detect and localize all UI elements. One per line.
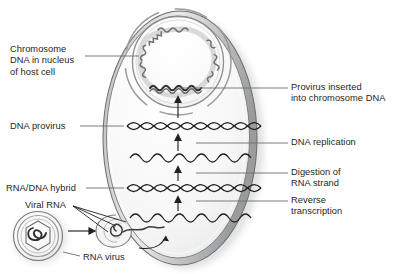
label-chromosome-line2: DNA in nucleus — [10, 55, 74, 66]
label-provirus-inserted-line1: Provirus inserted — [291, 82, 385, 93]
label-viral-rna-line1: Viral RNA — [25, 200, 66, 211]
label-dna-provirus-line1: DNA provirus — [10, 121, 65, 132]
label-rna-dna-hybrid-line1: RNA/DNA hybrid — [6, 183, 76, 194]
label-digestion: Digestion of RNA strand — [291, 167, 341, 190]
diagram-canvas: Chromosome DNA in nucleus of host cell D… — [0, 0, 397, 274]
label-digestion-line2: RNA strand — [291, 178, 341, 189]
label-chromosome: Chromosome DNA in nucleus of host cell — [10, 44, 74, 78]
label-chromosome-line1: Chromosome — [10, 44, 74, 55]
label-digestion-line1: Digestion of — [291, 167, 341, 178]
label-reverse-transcription-line1: Reverse — [291, 195, 342, 206]
virus-entry-arrow — [68, 228, 95, 234]
label-provirus-inserted: Provirus inserted into chromosome DNA — [291, 82, 385, 105]
label-dna-provirus: DNA provirus — [10, 121, 65, 132]
label-reverse-transcription: Reverse transcription — [291, 195, 342, 218]
label-viral-rna: Viral RNA — [25, 200, 66, 211]
rna-virus-particle — [13, 212, 67, 265]
label-provirus-inserted-line2: into chromosome DNA — [291, 93, 385, 104]
label-rna-dna-hybrid: RNA/DNA hybrid — [6, 183, 76, 194]
label-rna-virus: RNA virus — [83, 252, 125, 263]
label-dna-replication-line1: DNA replication — [291, 137, 356, 148]
label-rna-virus-line1: RNA virus — [83, 252, 125, 263]
label-reverse-transcription-line2: transcription — [291, 206, 342, 217]
label-dna-replication: DNA replication — [291, 137, 356, 148]
label-chromosome-line3: of host cell — [10, 67, 74, 78]
